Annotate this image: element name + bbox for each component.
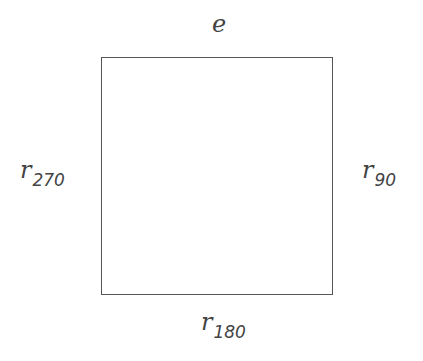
label-right-base: r [362,156,373,184]
label-bottom-base: r [201,308,212,336]
label-top-base: e [212,10,226,38]
label-right-r90: r90 [362,158,396,182]
label-bottom-subscript: 180 [213,322,245,342]
label-left-base: r [20,156,31,184]
label-right-subscript: 90 [374,170,396,190]
label-left-r270: r270 [20,158,65,182]
square-shape [101,57,333,295]
label-bottom-r180: r180 [201,310,246,334]
label-left-subscript: 270 [32,170,64,190]
label-top-e: e [212,12,226,36]
